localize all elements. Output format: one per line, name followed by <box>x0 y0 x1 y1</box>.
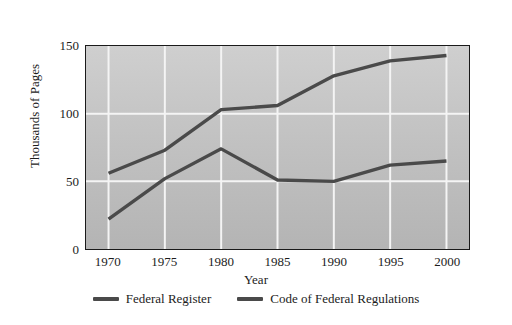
plot-area <box>85 45 470 250</box>
plot-svg <box>86 46 469 249</box>
chart-legend: Federal Register Code of Federal Regulat… <box>0 291 512 307</box>
legend-swatch-federal-register <box>93 297 119 301</box>
legend-item-code-of-federal-regulations: Code of Federal Regulations <box>237 291 419 307</box>
chart-figure: 150 100 50 0 Thousands of Pages 19701975… <box>0 0 512 325</box>
x-tick-1995: 1995 <box>364 254 418 270</box>
x-tick-1980: 1980 <box>194 254 248 270</box>
x-axis-title: Year <box>0 272 512 288</box>
y-tick-50: 50 <box>66 175 79 188</box>
legend-item-federal-register: Federal Register <box>93 291 212 307</box>
legend-swatch-code-of-federal-regulations <box>237 297 263 301</box>
y-axis-title: Thousands of Pages <box>27 31 43 201</box>
y-tick-100: 100 <box>60 107 80 120</box>
legend-label-code-of-federal-regulations: Code of Federal Regulations <box>270 291 419 307</box>
vertical-gridlines <box>109 46 447 249</box>
y-tick-150: 150 <box>60 39 80 52</box>
x-tick-1975: 1975 <box>137 254 191 270</box>
y-tick-0: 0 <box>73 243 80 256</box>
x-tick-1985: 1985 <box>251 254 305 270</box>
x-tick-1990: 1990 <box>307 254 361 270</box>
legend-label-federal-register: Federal Register <box>126 291 212 307</box>
x-tick-2000: 2000 <box>420 254 474 270</box>
x-tick-1970: 1970 <box>81 254 135 270</box>
